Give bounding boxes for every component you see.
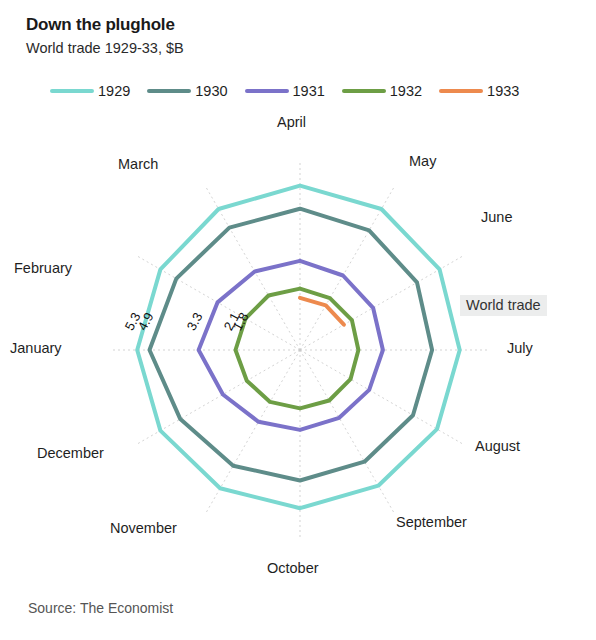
source-caption: Source: The Economist xyxy=(28,600,173,616)
legend-label-1932: 1932 xyxy=(390,83,422,99)
legend-item-1929[interactable]: 1929 xyxy=(50,83,130,99)
legend-label-1930: 1930 xyxy=(195,83,227,99)
legend-label-1929: 1929 xyxy=(98,83,130,99)
legend-label-1931: 1931 xyxy=(293,83,325,99)
legend-swatch-1933 xyxy=(439,89,483,93)
axis-label-november: November xyxy=(110,520,177,536)
legend-item-1933[interactable]: 1933 xyxy=(439,83,519,99)
series-line-1932 xyxy=(236,289,359,409)
legend-swatch-1932 xyxy=(342,89,386,93)
series-line-1929 xyxy=(137,186,460,509)
chart-subtitle: World trade 1929-33, $B xyxy=(26,38,566,58)
legend-swatch-1931 xyxy=(245,89,289,93)
series-lines-group xyxy=(137,186,460,509)
axis-label-october: October xyxy=(267,560,319,576)
page-title: Down the plughole xyxy=(26,14,566,35)
chart-legend: 19291930193119321933 xyxy=(50,83,550,99)
axis-label-march: March xyxy=(118,156,158,172)
axis-label-august: August xyxy=(475,438,520,454)
axis-label-january: January xyxy=(10,340,62,356)
axis-label-september: September xyxy=(396,514,467,530)
axis-label-april: April xyxy=(277,114,306,130)
axis-label-july: July xyxy=(507,340,533,356)
axis-label-may: May xyxy=(409,153,436,169)
axis-label-june: June xyxy=(481,209,512,225)
chart-header: Down the plughole World trade 1929-33, $… xyxy=(26,14,566,58)
legend-swatch-1929 xyxy=(50,89,94,93)
legend-swatch-1930 xyxy=(147,89,191,93)
chart-page: Down the plughole World trade 1929-33, $… xyxy=(0,0,596,640)
axis-label-february: February xyxy=(14,260,72,276)
legend-label-1933: 1933 xyxy=(487,83,519,99)
world-trade-annotation: World trade xyxy=(460,295,547,316)
gridline-spoke-September xyxy=(300,350,394,513)
spiral-chart-plot: AprilMayJuneJulyAugustSeptemberOctoberNo… xyxy=(0,108,596,588)
legend-item-1930[interactable]: 1930 xyxy=(147,83,227,99)
legend-item-1931[interactable]: 1931 xyxy=(245,83,325,99)
legend-item-1932[interactable]: 1932 xyxy=(342,83,422,99)
axis-label-december: December xyxy=(37,445,104,461)
series-line-1933 xyxy=(300,298,344,325)
